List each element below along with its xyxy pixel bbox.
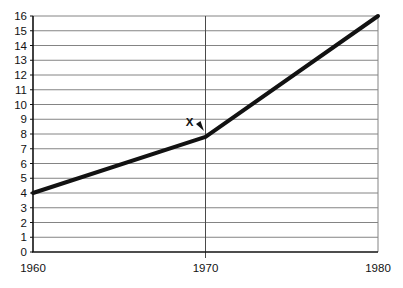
x-tick-label: 1960 <box>20 262 46 274</box>
y-tick-label: 8 <box>21 128 27 140</box>
y-tick-label: 14 <box>14 40 27 52</box>
y-tick-label: 10 <box>14 99 27 111</box>
y-tick-label: 3 <box>21 202 27 214</box>
y-tick-label: 1 <box>21 231 27 243</box>
annotation-label: X <box>186 116 194 128</box>
y-tick-label: 13 <box>14 54 27 66</box>
x-tick-label: 1980 <box>365 262 391 274</box>
y-tick-label: 7 <box>21 143 27 155</box>
line-chart-figure: 012345678910111213141516196019701980X <box>0 0 403 288</box>
y-tick-label: 11 <box>15 84 27 96</box>
y-tick-label: 12 <box>14 69 27 81</box>
y-tick-label: 6 <box>21 158 27 170</box>
x-tick-label: 1970 <box>193 262 219 274</box>
line-chart: 012345678910111213141516196019701980X <box>0 0 403 288</box>
y-tick-label: 0 <box>21 246 27 258</box>
y-tick-label: 2 <box>21 217 27 229</box>
y-tick-label: 4 <box>21 187 28 199</box>
y-tick-label: 9 <box>21 113 27 125</box>
y-tick-label: 5 <box>21 172 27 184</box>
y-tick-label: 15 <box>14 25 27 37</box>
y-tick-label: 16 <box>14 10 27 22</box>
